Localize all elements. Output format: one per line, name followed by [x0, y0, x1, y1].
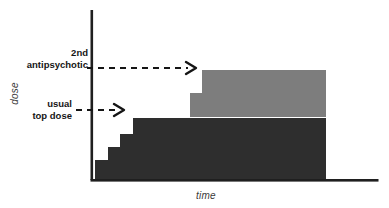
annotation-arrow-usual-top-dose — [76, 104, 124, 116]
annotation-second-antipsychotic-line-1: 2nd — [10, 47, 88, 59]
x-axis-label: time — [196, 190, 216, 201]
series-first-antipsychotic-area — [95, 118, 326, 180]
annotation-usual-top-dose-line-1: usual — [10, 98, 72, 110]
annotation-usual-top-dose: usual top dose — [10, 98, 72, 121]
annotation-arrow-second-antipsychotic — [87, 62, 196, 74]
y-axis-line — [91, 10, 94, 180]
annotation-second-antipsychotic-line-2: antipsychotic — [10, 59, 88, 71]
annotation-second-antipsychotic: 2nd antipsychotic — [10, 47, 88, 70]
series-second-antipsychotic-area — [178, 70, 326, 117]
annotation-usual-top-dose-line-2: top dose — [10, 110, 72, 122]
dose-escalation-chart: dose time 2nd antipsychotic usual top do… — [0, 0, 389, 208]
x-axis-line — [91, 179, 379, 182]
